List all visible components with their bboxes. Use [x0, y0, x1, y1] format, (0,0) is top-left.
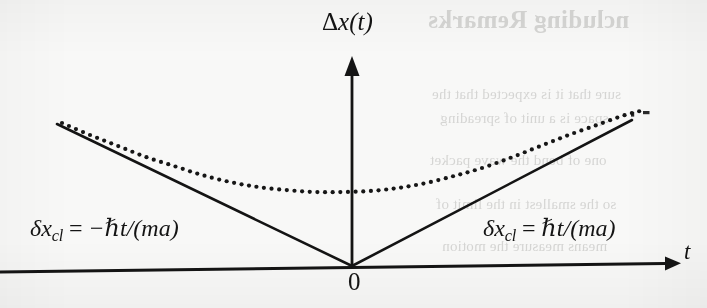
plot-canvas	[0, 0, 707, 308]
left-eq-rhs: −ℏt/(ma)	[88, 215, 178, 241]
y-axis-label-delta: Δ	[322, 8, 338, 35]
origin-label: 0	[348, 268, 361, 296]
right-eq-rhs: ℏt/(ma)	[541, 215, 615, 241]
left-equation-annotation: δxcl = −ℏt/(ma)	[30, 214, 179, 246]
textbook-figure-quantum-spreading: ncluding Remarks sure that it is expecte…	[0, 0, 707, 308]
right-eq-subscript: cl	[505, 226, 516, 245]
y-axis-arrowhead	[345, 56, 360, 76]
left-eq-equals: =	[68, 215, 84, 241]
y-axis-label-var: x	[338, 8, 349, 35]
left-eq-delta: δ	[30, 215, 41, 241]
left-eq-subscript: cl	[52, 226, 63, 245]
right-eq-delta: δ	[483, 215, 494, 241]
right-equation-annotation: δxcl = ℏt/(ma)	[483, 214, 615, 246]
right-eq-equals: =	[521, 215, 537, 241]
x-axis	[0, 257, 681, 273]
y-axis-label: Δx(t)	[322, 8, 373, 36]
y-axis	[345, 56, 360, 266]
x-axis-label: t	[684, 239, 690, 265]
quantum-spreading-curve	[60, 109, 641, 194]
right-eq-var: x	[494, 215, 505, 241]
left-eq-var: x	[41, 215, 52, 241]
y-axis-label-arg: (t)	[349, 8, 373, 35]
x-axis-arrowhead	[665, 257, 681, 271]
